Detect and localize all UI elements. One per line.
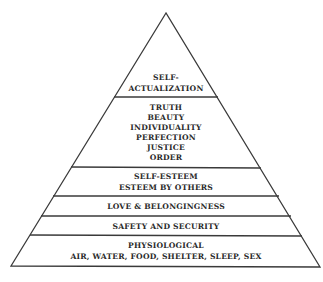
tier-physiological: PHYSIOLOGICAL AIR, WATER, FOOD, SHELTER,… [69,241,261,261]
divider-being-values [71,167,261,168]
tier-self-actualization: SELF- ACTUALIZATION [127,73,203,93]
tier-esteem: SELF-ESTEEM ESTEEM BY OTHERS [119,172,213,192]
tier-label-line: PERFECTION [136,133,196,142]
tier-label-line: ACTUALIZATION [127,84,203,93]
tier-label-line: INDIVIDUALITY [130,123,202,132]
tier-love: LOVE & BELONGINGNESS [107,202,225,211]
tier-label-line: PHYSIOLOGICAL [128,241,204,250]
tier-safety: SAFETY AND SECURITY [112,222,219,231]
tier-label-line: JUSTICE [146,143,185,152]
divider-safety [30,235,302,236]
tier-label-line: SELF-ESTEEM [134,172,198,181]
tier-label-line: ORDER [150,153,183,162]
tier-label-line: LOVE & BELONGINGNESS [107,202,225,211]
tier-label-line: SELF- [153,73,179,82]
tier-label-line: BEAUTY [148,113,185,122]
tier-being-values: TRUTH BEAUTY INDIVIDUALITY PERFECTION JU… [130,103,202,162]
tier-label-line: AIR, WATER, FOOD, SHELTER, SLEEP, SEX [69,252,261,261]
tier-label-line: SAFETY AND SECURITY [112,222,219,231]
maslow-pyramid-diagram: SELF- ACTUALIZATION TRUTH BEAUTY INDIVID… [0,0,323,282]
tier-label-line: TRUTH [150,103,182,112]
tier-label-line: ESTEEM BY OTHERS [119,183,213,192]
